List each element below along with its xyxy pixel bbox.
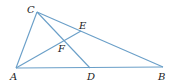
segment-AC [16,12,37,68]
label-C: C [27,4,35,15]
label-F: F [57,43,66,54]
label-D: D [86,71,95,82]
label-B: B [157,71,165,82]
segment-AE [16,31,81,68]
point-labels: C A B D E F [9,4,165,82]
segment-CB [37,12,163,67]
geometry-diagram: C A B D E F [0,0,174,84]
label-E: E [78,20,87,31]
label-A: A [9,71,17,82]
segments [16,12,163,68]
